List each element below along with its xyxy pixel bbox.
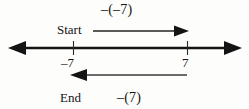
end-arrow-head [70, 69, 87, 81]
bottom-operation-label: –(7) [117, 91, 141, 105]
tick-label-minus-7: –7 [61, 56, 74, 69]
number-line-left-arrowhead [8, 41, 26, 55]
number-line-axis [8, 41, 242, 55]
number-line-figure: –(–7) Start –7 7 End –(7) [0, 0, 249, 109]
tick-label-7: 7 [182, 56, 189, 69]
start-label: Start [57, 23, 82, 36]
end-arrow [70, 69, 187, 81]
end-label: End [60, 91, 81, 104]
top-operation-label: –(–7) [101, 3, 132, 17]
start-arrow [93, 26, 189, 37]
number-line-right-arrowhead [224, 41, 242, 55]
start-arrow-head [174, 26, 189, 37]
